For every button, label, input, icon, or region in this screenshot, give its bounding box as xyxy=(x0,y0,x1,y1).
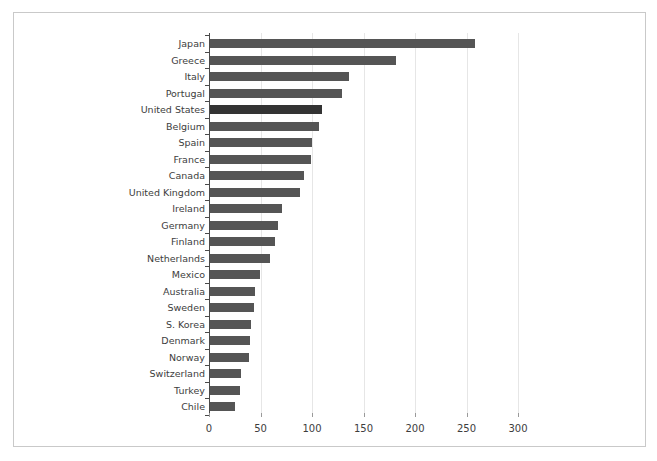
y-axis-tick-mark xyxy=(205,200,209,201)
category-label-row: Turkey xyxy=(14,385,205,396)
bar-fill xyxy=(210,188,300,197)
x-axis-tick-mark xyxy=(209,413,210,417)
category-label: S. Korea xyxy=(20,319,205,330)
bar xyxy=(210,204,282,213)
category-label: Turkey xyxy=(20,385,205,396)
bar-fill xyxy=(210,56,396,65)
category-label: Sweden xyxy=(20,302,205,313)
category-label: United Kingdom xyxy=(20,187,205,198)
bar-fill-highlight xyxy=(210,105,322,114)
bar xyxy=(210,254,270,263)
y-axis-tick-mark xyxy=(205,167,209,168)
bar xyxy=(210,39,475,48)
x-axis-tick-label: 50 xyxy=(241,423,281,434)
bar-fill xyxy=(210,89,342,98)
category-label: Spain xyxy=(20,137,205,148)
category-label-row: Greece xyxy=(14,55,205,66)
bar xyxy=(210,353,249,362)
x-axis-tick-label: 250 xyxy=(447,423,487,434)
category-label-row: United States xyxy=(14,104,205,115)
bar-fill xyxy=(210,336,250,345)
y-axis-tick-mark xyxy=(205,184,209,185)
y-axis-tick-mark xyxy=(205,118,209,119)
x-axis-tick-label: 150 xyxy=(344,423,384,434)
category-label-row: Australia xyxy=(14,286,205,297)
bar-fill xyxy=(210,221,278,230)
bar xyxy=(210,237,275,246)
category-label-row: Canada xyxy=(14,170,205,181)
x-axis-tick-mark xyxy=(415,413,416,417)
category-label-row: Mexico xyxy=(14,269,205,280)
bar xyxy=(210,287,255,296)
category-label: Norway xyxy=(20,352,205,363)
bar xyxy=(210,138,312,147)
gridline xyxy=(467,33,468,413)
category-label-row: Portugal xyxy=(14,88,205,99)
category-label: Switzerland xyxy=(20,368,205,379)
gridline xyxy=(364,33,365,413)
category-label-row: Germany xyxy=(14,220,205,231)
bar xyxy=(210,56,396,65)
y-axis-tick-mark xyxy=(205,266,209,267)
bar xyxy=(210,369,241,378)
category-label: Mexico xyxy=(20,269,205,280)
bar xyxy=(210,270,260,279)
category-label: Portugal xyxy=(20,88,205,99)
bar-fill xyxy=(210,386,240,395)
bar-fill xyxy=(210,287,255,296)
chart-figure-frame: JapanGreeceItalyPortugalUnited StatesBel… xyxy=(13,12,646,447)
bar-fill xyxy=(210,171,304,180)
category-label-row: Japan xyxy=(14,38,205,49)
category-label-row: Chile xyxy=(14,401,205,412)
category-label: Netherlands xyxy=(20,253,205,264)
bar-fill xyxy=(210,402,235,411)
x-axis-tick-label: 100 xyxy=(292,423,332,434)
category-label: Finland xyxy=(20,236,205,247)
y-axis-tick-mark xyxy=(205,365,209,366)
gridline xyxy=(518,33,519,413)
y-axis-tick-mark xyxy=(205,382,209,383)
category-label-row: Switzerland xyxy=(14,368,205,379)
category-label-row: Finland xyxy=(14,236,205,247)
bar xyxy=(210,89,342,98)
category-label-row: Belgium xyxy=(14,121,205,132)
bar xyxy=(210,72,349,81)
category-label: France xyxy=(20,154,205,165)
bar xyxy=(210,402,235,411)
bar xyxy=(210,221,278,230)
x-axis-tick-label: 300 xyxy=(498,423,538,434)
bar xyxy=(210,105,322,114)
category-label-row: Italy xyxy=(14,71,205,82)
y-axis-tick-mark xyxy=(205,35,209,36)
y-axis-tick-mark xyxy=(205,349,209,350)
y-axis-tick-mark xyxy=(205,68,209,69)
bar-chart-plot-area: JapanGreeceItalyPortugalUnited StatesBel… xyxy=(14,13,645,446)
category-label-row: S. Korea xyxy=(14,319,205,330)
bar xyxy=(210,188,300,197)
category-label: Germany xyxy=(20,220,205,231)
category-label-row: Netherlands xyxy=(14,253,205,264)
bar xyxy=(210,303,254,312)
category-label: Denmark xyxy=(20,335,205,346)
y-axis-tick-mark xyxy=(205,85,209,86)
category-label: Italy xyxy=(20,71,205,82)
bar-fill xyxy=(210,303,254,312)
category-label: Japan xyxy=(20,38,205,49)
x-axis-tick-mark xyxy=(467,413,468,417)
y-axis-tick-mark xyxy=(205,398,209,399)
bar-fill xyxy=(210,270,260,279)
y-axis-tick-mark xyxy=(205,217,209,218)
bar-fill xyxy=(210,204,282,213)
bar-fill xyxy=(210,138,312,147)
bar xyxy=(210,122,319,131)
x-axis-tick-label: 0 xyxy=(189,423,229,434)
category-label: Australia xyxy=(20,286,205,297)
category-label-row: Spain xyxy=(14,137,205,148)
category-label-row: France xyxy=(14,154,205,165)
y-axis-tick-mark xyxy=(205,283,209,284)
bar-fill xyxy=(210,155,311,164)
category-label-row: Norway xyxy=(14,352,205,363)
bar-fill xyxy=(210,320,251,329)
y-axis-tick-mark xyxy=(205,316,209,317)
gridline xyxy=(415,33,416,413)
